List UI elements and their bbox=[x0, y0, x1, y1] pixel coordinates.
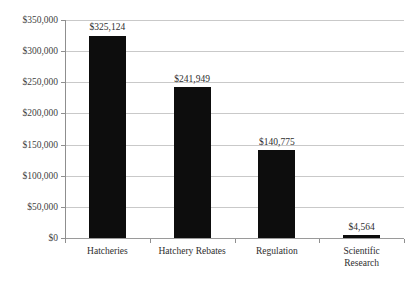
x-axis-tick bbox=[235, 239, 236, 243]
y-axis-tick-label: $100,000 bbox=[22, 171, 58, 181]
y-axis-tick-label: $200,000 bbox=[22, 108, 58, 118]
x-axis-category-label-line: Research bbox=[314, 257, 410, 269]
x-axis-category-label: Hatchery Rebates bbox=[144, 245, 240, 257]
y-axis-line bbox=[65, 20, 66, 239]
y-axis-tick bbox=[61, 82, 65, 83]
bar-chart: $0$50,000$100,000$150,000$200,000$250,00… bbox=[0, 0, 414, 288]
y-axis-tick bbox=[61, 207, 65, 208]
bar-value-label: $325,124 bbox=[62, 22, 152, 33]
x-axis-tick bbox=[150, 239, 151, 243]
x-axis-tick bbox=[319, 239, 320, 243]
y-axis-tick-label: $150,000 bbox=[22, 140, 58, 150]
x-axis-tick bbox=[404, 239, 405, 243]
y-axis-tick-label: $300,000 bbox=[22, 46, 58, 56]
y-axis-tick-label: $0 bbox=[49, 233, 59, 243]
x-axis-category-label: Regulation bbox=[229, 245, 325, 257]
x-axis-tick bbox=[65, 239, 66, 243]
y-axis-labels: $0$50,000$100,000$150,000$200,000$250,00… bbox=[0, 0, 58, 288]
bar-value-label: $4,564 bbox=[317, 222, 407, 233]
plot-area bbox=[65, 20, 404, 238]
y-axis-tick bbox=[61, 176, 65, 177]
bar[interactable] bbox=[258, 150, 295, 238]
x-axis-category-label-line: Hatchery Rebates bbox=[144, 245, 240, 257]
bar[interactable] bbox=[343, 235, 380, 238]
y-axis-tick bbox=[61, 238, 65, 239]
x-axis-category-label-line: Hatcheries bbox=[59, 245, 155, 257]
bar[interactable] bbox=[89, 36, 126, 239]
bar[interactable] bbox=[174, 87, 211, 238]
y-axis-tick bbox=[61, 51, 65, 52]
x-axis-category-label-line: Scientific bbox=[314, 245, 410, 257]
y-axis-tick bbox=[61, 20, 65, 21]
bar-value-label: $241,949 bbox=[147, 74, 237, 85]
y-axis-tick-label: $350,000 bbox=[22, 15, 58, 25]
x-axis-category-label: ScientificResearch bbox=[314, 245, 410, 269]
y-axis-tick-label: $250,000 bbox=[22, 77, 58, 87]
x-axis-category-label-line: Regulation bbox=[229, 245, 325, 257]
y-axis-tick bbox=[61, 145, 65, 146]
x-axis-category-label: Hatcheries bbox=[59, 245, 155, 257]
y-axis-tick bbox=[61, 113, 65, 114]
y-axis-tick-label: $50,000 bbox=[27, 202, 58, 212]
bar-value-label: $140,775 bbox=[232, 137, 322, 148]
gridline bbox=[65, 20, 404, 21]
